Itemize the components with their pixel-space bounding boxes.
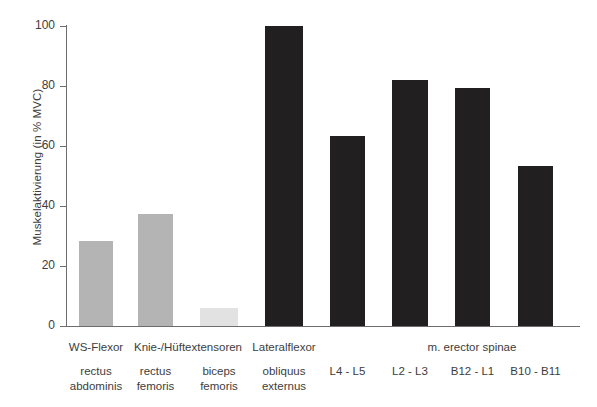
bar	[455, 88, 490, 327]
bar-label-line2: externus	[224, 379, 344, 394]
bar-chart: Muskelaktivierung (in % MVC) 02040608010…	[0, 0, 597, 407]
bar	[265, 26, 303, 326]
group-label: Lateralflexor	[229, 341, 339, 353]
bar	[200, 308, 238, 326]
bar-label: B10 - B11	[476, 364, 596, 379]
bar	[138, 214, 173, 327]
bar	[392, 80, 428, 326]
bar	[79, 241, 113, 327]
group-label: m. erector spinae	[352, 341, 592, 353]
bar-label-line1: B10 - B11	[476, 364, 596, 379]
bar	[330, 136, 365, 327]
bar	[518, 166, 553, 327]
